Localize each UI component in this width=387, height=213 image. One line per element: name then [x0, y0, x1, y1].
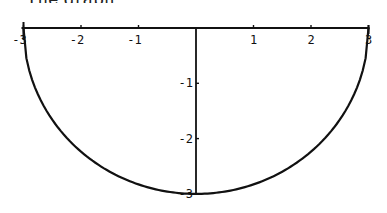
y-tick-label: -1	[179, 76, 193, 90]
semicircle-chart: -3-2-1123-1-2-3	[0, 0, 387, 213]
axes	[22, 22, 370, 195]
y-tick-label: -2	[179, 132, 193, 146]
x-tick-label: -2	[70, 33, 84, 47]
x-tick-label: -1	[127, 33, 141, 47]
x-tick-label: 2	[307, 33, 314, 47]
x-tick-label: 1	[250, 33, 257, 47]
tick-labels: -3-2-1123-1-2-3	[12, 33, 372, 201]
